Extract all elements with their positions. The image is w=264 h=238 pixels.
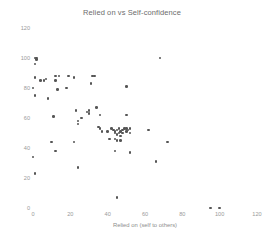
scatter-point: [119, 139, 122, 142]
scatter-point: [155, 160, 158, 163]
scatter-point: [77, 123, 80, 126]
scatter-point: [54, 75, 57, 78]
plot-area: 020406080100120 020406080100120: [33, 28, 257, 208]
scatter-point: [116, 196, 119, 199]
scatter-point: [95, 106, 98, 109]
scatter-point: [125, 85, 128, 88]
scatter-point: [34, 172, 37, 175]
scatter-point: [99, 114, 102, 117]
x-tick-label: 20: [67, 211, 73, 217]
scatter-point: [47, 97, 50, 100]
scatter-point: [218, 207, 221, 210]
scatter-point: [32, 156, 35, 159]
scatter-point: [32, 87, 35, 90]
y-tick-label: 80: [24, 85, 30, 91]
x-tick-label: 60: [142, 211, 148, 217]
y-tick-label: 0: [27, 205, 30, 211]
scatter-point: [125, 114, 128, 117]
scatter-point: [209, 207, 212, 210]
scatter-point: [80, 117, 83, 120]
scatter-point: [106, 130, 109, 133]
scatter-point: [108, 138, 111, 141]
y-tick-label: 100: [21, 55, 30, 61]
scatter-point: [166, 141, 169, 144]
page-title: Relied on vs Self-confidence: [0, 8, 264, 17]
scatter-plot-figure: Relied on vs Self-confidence 02040608010…: [0, 0, 264, 238]
x-tick-label: 100: [215, 211, 224, 217]
scatter-point: [45, 78, 48, 81]
y-tick-label: 40: [24, 145, 30, 151]
scatter-point: [147, 129, 150, 132]
scatter-point: [114, 150, 117, 153]
scatter-point: [34, 76, 37, 79]
scatter-point: [39, 79, 42, 82]
scatter-point: [75, 109, 78, 112]
scatter-point: [121, 132, 124, 135]
x-axis-label: Relied on (self to others): [33, 222, 257, 228]
scatter-point: [159, 57, 162, 60]
scatter-point: [129, 132, 132, 135]
scatter-point: [90, 82, 93, 85]
x-tick-label: 0: [31, 211, 34, 217]
scatter-point: [34, 63, 37, 66]
scatter-point: [73, 141, 76, 144]
scatter-point: [52, 115, 55, 118]
x-tick-label: 120: [252, 211, 261, 217]
y-tick-label: 20: [24, 175, 30, 181]
scatter-point: [65, 87, 68, 90]
scatter-point: [73, 76, 76, 79]
scatter-point: [50, 141, 53, 144]
scatter-point: [116, 139, 119, 142]
x-tick-label: 40: [105, 211, 111, 217]
scatter-point: [54, 79, 57, 82]
scatter-point: [129, 151, 132, 154]
scatter-point: [101, 130, 104, 133]
scatter-point: [35, 58, 38, 61]
scatter-point: [54, 150, 57, 153]
scatter-point: [34, 94, 37, 97]
y-tick-label: 120: [21, 25, 30, 31]
scatter-point: [119, 135, 122, 138]
y-tick-label: 60: [24, 115, 30, 121]
scatter-point: [56, 88, 59, 91]
scatter-point: [129, 127, 132, 130]
scatter-point: [88, 112, 91, 115]
scatter-point: [93, 75, 96, 78]
scatter-point: [77, 120, 80, 123]
scatter-point: [58, 75, 61, 78]
scatter-point: [67, 75, 70, 78]
x-tick-label: 80: [179, 211, 185, 217]
scatter-point: [77, 166, 80, 169]
